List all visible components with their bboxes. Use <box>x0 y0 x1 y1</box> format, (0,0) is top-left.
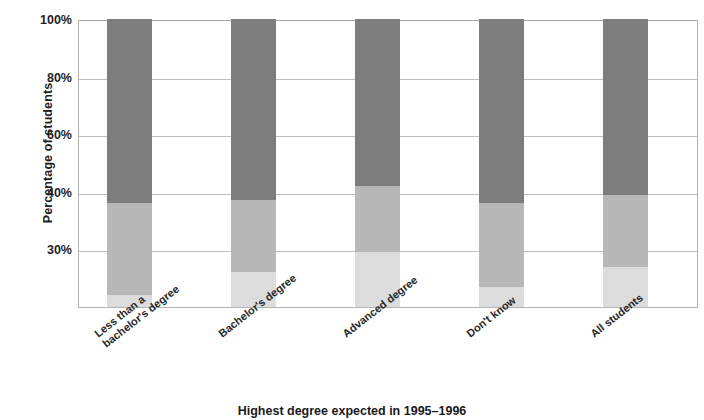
y-axis-tick-label: 30% <box>24 243 72 257</box>
bar-1[interactable] <box>107 19 152 307</box>
bar-segment-bottom-segment <box>479 287 524 307</box>
bar-segment-bottom-segment <box>107 295 152 307</box>
chart-figure: Percentage of students 100%80%60%40%30% … <box>0 0 704 420</box>
x-axis-title: Highest degree expected in 1995–1996 <box>0 404 704 418</box>
bar-segment-middle-segment <box>355 186 400 252</box>
bar-segment-top-segment <box>355 19 400 186</box>
bar-segment-top-segment <box>231 19 276 200</box>
bar-segment-middle-segment <box>479 203 524 287</box>
bar-segment-middle-segment <box>107 203 152 295</box>
bar-5[interactable] <box>603 19 648 307</box>
bar-segment-middle-segment <box>603 195 648 267</box>
y-axis-tick-label: 100% <box>24 13 72 27</box>
plot-area <box>78 20 698 308</box>
bar-segment-top-segment <box>603 19 648 195</box>
bar-3[interactable] <box>355 19 400 307</box>
bar-segment-bottom-segment <box>231 272 276 307</box>
bar-segment-bottom-segment <box>355 252 400 307</box>
y-axis-tick-label: 40% <box>24 186 72 200</box>
bar-2[interactable] <box>231 19 276 307</box>
bar-segment-top-segment <box>479 19 524 203</box>
y-axis-tick-label: 80% <box>24 71 72 85</box>
y-axis-tick-labels: 100%80%60%40%30% <box>22 0 72 420</box>
y-axis-tick-label: 60% <box>24 128 72 142</box>
bar-segment-middle-segment <box>231 200 276 272</box>
bar-segment-top-segment <box>107 19 152 203</box>
bar-4[interactable] <box>479 19 524 307</box>
bar-segment-bottom-segment <box>603 267 648 307</box>
